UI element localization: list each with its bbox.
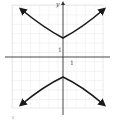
y-axis-arrow-icon	[61, 1, 65, 5]
hyperbola-graph: y 1 1 ²	[0, 0, 115, 121]
x-unit-tick-label: 1	[70, 59, 74, 66]
y-axis-label: y	[55, 0, 60, 8]
corner-note: ²	[12, 115, 14, 121]
y-unit-tick-label: 1	[58, 46, 62, 53]
